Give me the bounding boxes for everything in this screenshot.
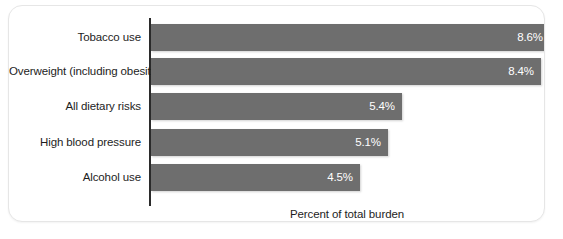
- bar-alcohol-use[interactable]: 4.5%: [151, 164, 360, 191]
- category-label-high-blood-pressure: High blood pressure: [9, 129, 141, 156]
- category-label-tobacco-use: Tobacco use: [9, 24, 141, 51]
- bar-row: Alcohol use 4.5%: [9, 164, 545, 191]
- bar-value-label: 8.6%: [517, 24, 543, 51]
- bar-value-label: 5.1%: [355, 129, 381, 156]
- bar-high-blood-pressure[interactable]: 5.1%: [151, 129, 388, 156]
- bar-track: 5.1%: [151, 129, 543, 156]
- x-axis-caption: Percent of total burden: [151, 208, 543, 220]
- category-label-overweight: Overweight (including obesity): [9, 58, 141, 85]
- bar-all-dietary-risks[interactable]: 5.4%: [151, 93, 402, 120]
- bar-track: 8.4%: [151, 58, 543, 85]
- bar-chart-plot-area: Tobacco use 8.6% Overweight (including o…: [9, 6, 545, 222]
- category-label-all-dietary-risks: All dietary risks: [9, 93, 141, 120]
- bar-row: Overweight (including obesity) 8.4%: [9, 58, 545, 85]
- bar-row: Tobacco use 8.6%: [9, 24, 545, 51]
- bar-track: 4.5%: [151, 164, 543, 191]
- bar-tobacco-use[interactable]: 8.6%: [151, 24, 545, 51]
- bar-value-label: 8.4%: [508, 58, 534, 85]
- chart-card: Tobacco use 8.6% Overweight (including o…: [8, 5, 545, 222]
- bar-value-label: 5.4%: [369, 93, 395, 120]
- bar-track: 8.6%: [151, 24, 543, 51]
- bar-value-label: 4.5%: [327, 164, 353, 191]
- bar-track: 5.4%: [151, 93, 543, 120]
- bar-overweight[interactable]: 8.4%: [151, 58, 541, 85]
- category-label-alcohol-use: Alcohol use: [9, 164, 141, 191]
- bar-row: High blood pressure 5.1%: [9, 129, 545, 156]
- bar-row: All dietary risks 5.4%: [9, 93, 545, 120]
